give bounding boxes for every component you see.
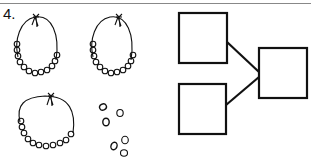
- number-bond: [179, 13, 307, 134]
- necklace-icon-2: [90, 14, 136, 76]
- part-box-1: [179, 13, 227, 63]
- part-box-2: [179, 84, 226, 134]
- loose-beads: [98, 103, 128, 157]
- necklace-icon-3: [18, 93, 74, 149]
- whole-box: [259, 48, 307, 98]
- necklace-icon-1: [14, 14, 60, 76]
- problem-illustration: [0, 0, 311, 164]
